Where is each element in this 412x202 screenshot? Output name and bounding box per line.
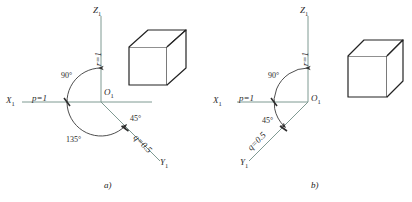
panel-b-axis-lines [237, 16, 308, 161]
panel-b-x-scale-label: p=1 [239, 94, 254, 103]
panel-b-angle-90: 90° [268, 72, 279, 80]
panel-b-origin-label: O1 [311, 94, 321, 105]
panel-b-caption: b) [311, 180, 319, 190]
panel-b-y-axis-label: Y1 [240, 158, 248, 169]
figure-canvas: Z1 X1 Y1 O1 p=1 r=1 q=0.5 90° 135° 45° a… [0, 0, 412, 202]
panel-b-angle-45: 45° [262, 117, 273, 125]
panel-b-graphics [0, 0, 412, 202]
panel-b-x-axis-label: X1 [213, 96, 222, 107]
panel-b-z-scale-label: r=1 [301, 52, 310, 66]
panel-b-cube [348, 40, 403, 97]
panel-b-z-axis-label: Z1 [300, 6, 308, 17]
